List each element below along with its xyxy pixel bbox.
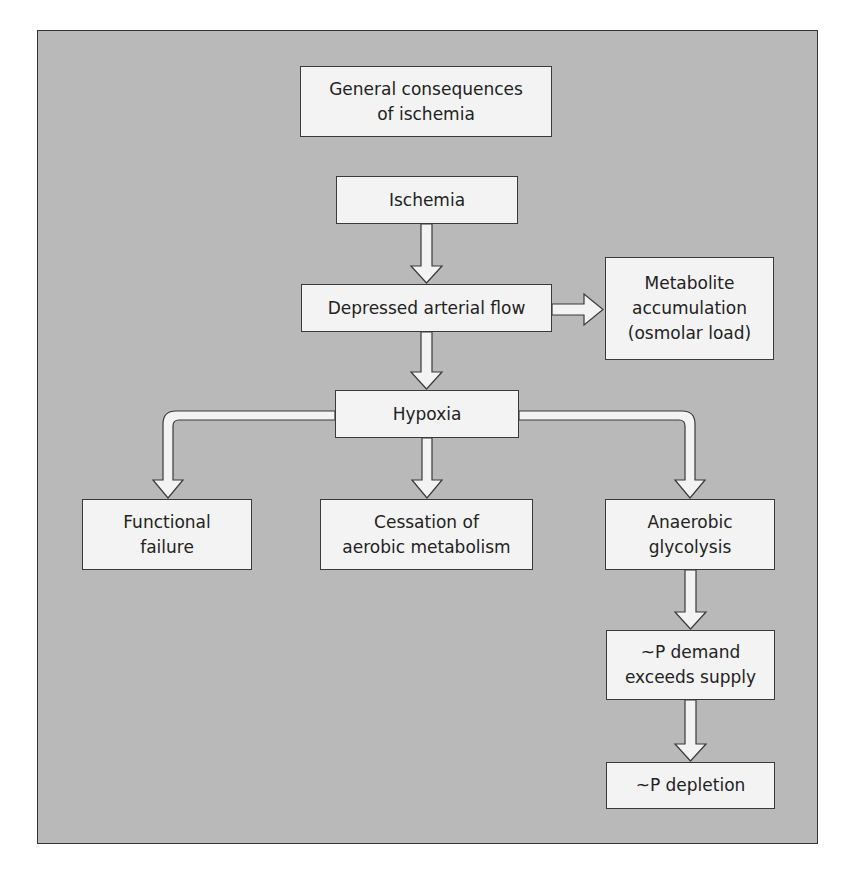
node-p-depletion: ~P depletion: [606, 762, 775, 809]
node-hypoxia: Hypoxia: [335, 390, 519, 438]
node-depressed-arterial-flow: Depressed arterial flow: [301, 284, 552, 332]
node-functional-failure: Functional failure: [82, 499, 252, 570]
node-metabolite-accumulation: Metabolite accumulation (osmolar load): [605, 257, 774, 360]
node-cessation-aerobic: Cessation of aerobic metabolism: [320, 499, 533, 570]
node-ischemia: Ischemia: [336, 176, 518, 224]
node-anaerobic-glycolysis: Anaerobic glycolysis: [605, 499, 775, 570]
title-box: General consequences of ischemia: [300, 66, 552, 137]
node-p-demand: ~P demand exceeds supply: [606, 630, 775, 700]
